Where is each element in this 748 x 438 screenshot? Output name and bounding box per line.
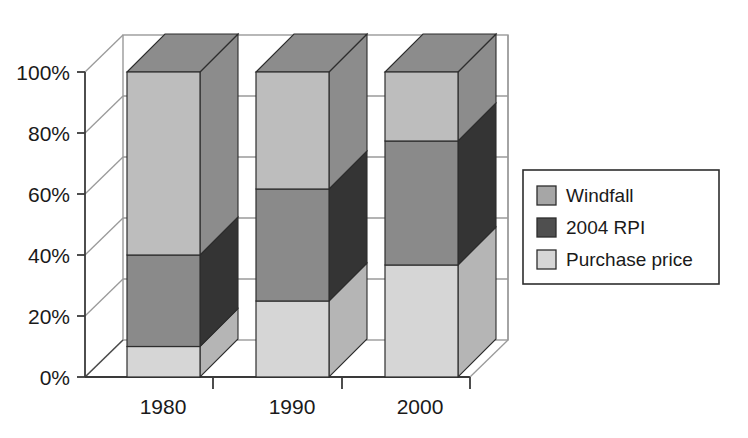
- legend-label-windfall: Windfall: [566, 185, 634, 206]
- depth-edge-80: [85, 96, 123, 133]
- bar-1980-rpi-front: [127, 255, 200, 347]
- x-tick-label-1990: 1990: [269, 395, 316, 418]
- bar-1980-windfall-side: [200, 34, 238, 255]
- y-tick-label-40: 40%: [28, 244, 70, 267]
- legend-swatch-purchase-price: [537, 250, 556, 269]
- legend-swatch-windfall: [537, 186, 556, 205]
- plot-depth-edges: [85, 35, 123, 377]
- x-tick-label-1980: 1980: [140, 395, 187, 418]
- legend-swatch-2004-rpi: [537, 218, 556, 237]
- y-tick-label-0: 0%: [40, 366, 70, 389]
- legend-item-windfall[interactable]: Windfall: [537, 185, 634, 206]
- bar-1980-purchase-front: [127, 347, 200, 378]
- bar-1980-windfall-front: [127, 72, 200, 255]
- bar-2000-rpi-front: [385, 141, 458, 265]
- y-axis: 100% 80% 60% 40% 20% 0%: [16, 61, 85, 389]
- bar-2000-purchase-front: [385, 265, 458, 377]
- x-tick-label-2000: 2000: [397, 395, 444, 418]
- bar-1990-purchase-front: [256, 301, 329, 377]
- bar-group-1990[interactable]: [256, 34, 367, 377]
- chart-container: 100% 80% 60% 40% 20% 0%: [0, 0, 748, 438]
- depth-edge-20: [85, 279, 123, 316]
- y-tick-label-80: 80%: [28, 122, 70, 145]
- bar-1990-windfall-front: [256, 72, 329, 189]
- depth-edge-60: [85, 157, 123, 194]
- depth-edge-100: [85, 35, 123, 72]
- bar-2000-windfall-front: [385, 72, 458, 141]
- y-tick-label-20: 20%: [28, 305, 70, 328]
- y-tick-label-100: 100%: [16, 61, 70, 84]
- legend-label-purchase-price: Purchase price: [566, 249, 693, 270]
- stacked-bar-chart-3d: 100% 80% 60% 40% 20% 0%: [0, 0, 748, 438]
- bar-1990-rpi-front: [256, 189, 329, 301]
- depth-edge-0: [85, 340, 123, 377]
- bar-group-2000[interactable]: [385, 34, 496, 377]
- bar-group-1980[interactable]: [127, 34, 238, 377]
- y-tick-label-60: 60%: [28, 183, 70, 206]
- legend-item-2004-rpi[interactable]: 2004 RPI: [537, 217, 645, 238]
- depth-edge-40: [85, 218, 123, 255]
- x-axis: 1980 1990 2000: [140, 377, 470, 418]
- legend: Windfall 2004 RPI Purchase price: [523, 170, 719, 284]
- legend-label-2004-rpi: 2004 RPI: [566, 217, 645, 238]
